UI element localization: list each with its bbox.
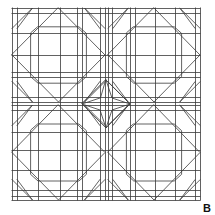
corner-triangle xyxy=(108,180,128,200)
four-point-star xyxy=(82,80,130,128)
diamond-shape xyxy=(12,105,105,200)
quadrant-bottom-right xyxy=(108,105,200,200)
figure-label: B xyxy=(203,203,211,214)
corner-triangle xyxy=(180,8,200,28)
diamond-shape xyxy=(12,8,105,102)
quadrant-top-left xyxy=(12,8,105,102)
grid-lines xyxy=(12,8,201,201)
corner-triangle xyxy=(12,8,32,28)
corner-triangle xyxy=(12,82,32,102)
corner-triangle xyxy=(85,8,105,28)
center-diamond xyxy=(82,80,130,128)
quadrant-bottom-left xyxy=(12,105,105,200)
corner-triangle xyxy=(12,180,32,200)
corner-triangle xyxy=(12,105,32,125)
diamond-shape xyxy=(108,8,200,102)
center-star xyxy=(82,80,130,128)
corner-triangle xyxy=(180,180,200,200)
geometric-pattern-diagram xyxy=(0,0,215,215)
corner-triangle xyxy=(180,82,200,102)
octagon-shape xyxy=(126,27,181,83)
quadrant-top-right xyxy=(108,8,200,102)
corner-triangle xyxy=(108,8,128,28)
octagon-motifs xyxy=(12,8,200,200)
octagon-shape xyxy=(31,27,87,83)
diamond-shape xyxy=(108,105,200,200)
corner-triangle xyxy=(180,105,200,125)
corner-triangle xyxy=(85,180,105,200)
